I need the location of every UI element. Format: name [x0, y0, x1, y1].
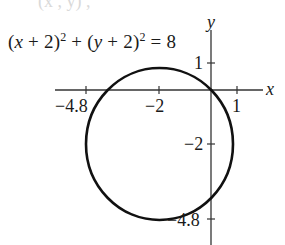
x-tick-label-neg2: −2	[145, 96, 164, 116]
plot-svg: x y −4.8 −2 1 1 −2 −4.8	[0, 0, 285, 245]
y-tick-label-neg2: −2	[184, 134, 203, 154]
graph-figure: (x , y) , (x + 2)2 + (y + 2)2 = 8 x y −4…	[0, 0, 285, 245]
x-tick-label-1: 1	[232, 96, 241, 116]
y-tick-label-1: 1	[194, 53, 203, 73]
x-tick-label-neg4.8: −4.8	[55, 96, 88, 116]
y-tick-label-neg4.8: −4.8	[167, 210, 200, 230]
x-axis-label: x	[265, 79, 274, 99]
y-axis-label: y	[205, 12, 215, 32]
